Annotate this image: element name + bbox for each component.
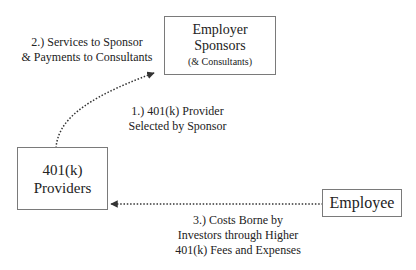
edge-label-services: 2.) Services to Sponsor & Payments to Co… <box>12 35 162 65</box>
employee-box: Employee <box>322 189 402 217</box>
edge-label-provider-selected: 1.) 401(k) Provider Selected by Sponsor <box>115 104 240 134</box>
sponsors-line1: Employer <box>192 22 247 38</box>
employer-sponsors-box: Employer Sponsors (& Consultants) <box>164 16 276 75</box>
sponsors-line3: (& Consultants) <box>188 54 252 69</box>
providers-line1: 401(k) <box>43 161 83 179</box>
edge-label-costs: 3.) Costs Borne by Investors through Hig… <box>168 213 308 258</box>
sponsors-line2: Sponsors <box>194 38 245 54</box>
401k-providers-box: 401(k) Providers <box>17 147 108 210</box>
providers-line2: Providers <box>34 179 92 197</box>
employee-label: Employee <box>330 194 395 212</box>
